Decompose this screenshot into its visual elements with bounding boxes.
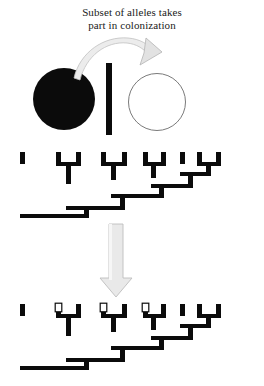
transition-arrow-icon <box>98 224 134 298</box>
figure-caption: Subset of alleles takes part in coloniza… <box>0 6 264 32</box>
phylogeny-after <box>0 302 264 374</box>
phylogeny-before <box>0 150 264 222</box>
diagram-canvas: Subset of alleles takes part in coloniza… <box>0 0 264 386</box>
caption-line-1: Subset of alleles takes <box>82 6 182 18</box>
allele-marker-group <box>55 303 149 312</box>
colonization-arrow-icon <box>70 34 170 90</box>
caption-line-2: part in colonization <box>0 19 264 32</box>
